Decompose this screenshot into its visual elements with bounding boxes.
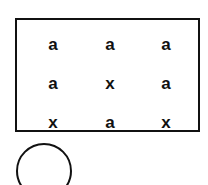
grid-cell-r2c2: x [95,74,125,94]
grid-cell-r2c3: a [151,74,181,94]
grid-cell-r1c2: a [95,35,125,55]
circle-shape [16,143,72,185]
grid-cell-r3c3: x [151,113,181,133]
grid-cell-r3c2: a [95,113,125,133]
grid-cell-r3c1: x [38,113,68,133]
grid-cell-r1c3: a [151,35,181,55]
grid-cell-r1c1: a [38,35,68,55]
grid-cell-r2c1: a [38,74,68,94]
letter-grid-box: a a a a x a x a x [15,18,200,132]
